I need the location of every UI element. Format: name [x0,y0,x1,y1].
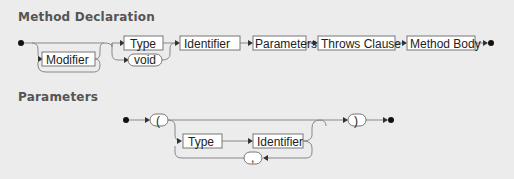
end-dot [388,117,394,123]
svg-text:Modifier: Modifier [46,53,89,67]
syntax-diagram: Modifier Type void Identifier Parameters… [0,0,514,179]
svg-text:Parameters: Parameters [255,37,317,51]
start-dot [123,117,129,123]
node-comma: , [244,151,262,165]
node-right-paren: ) [348,114,366,128]
node-parameters: Parameters [253,36,317,51]
node-left-paren: ( [150,114,168,128]
end-dot [488,40,494,46]
method-declaration-diagram: Modifier Type void Identifier Parameters… [18,36,494,72]
svg-text:): ) [354,114,358,128]
node-type: Type [124,36,163,51]
svg-text:(: ( [156,114,160,128]
start-dot [18,40,24,46]
node-void: void [128,53,162,67]
node-modifier: Modifier [42,52,95,67]
svg-text:,: , [251,151,254,165]
svg-text:Identifier: Identifier [184,37,230,51]
svg-text:void: void [134,53,156,67]
svg-text:Method Body: Method Body [410,37,481,51]
node-type: Type [183,134,222,149]
node-throws-clause: Throws Clause [318,36,401,51]
svg-text:Type: Type [188,135,214,149]
parameters-diagram: ( Type Identifier , ) [123,114,394,166]
node-identifier: Identifier [253,134,303,149]
svg-text:Type: Type [130,37,156,51]
svg-text:Identifier: Identifier [257,135,303,149]
node-identifier: Identifier [180,36,240,51]
svg-text:Throws Clause: Throws Clause [321,37,401,51]
node-method-body: Method Body [407,36,481,51]
